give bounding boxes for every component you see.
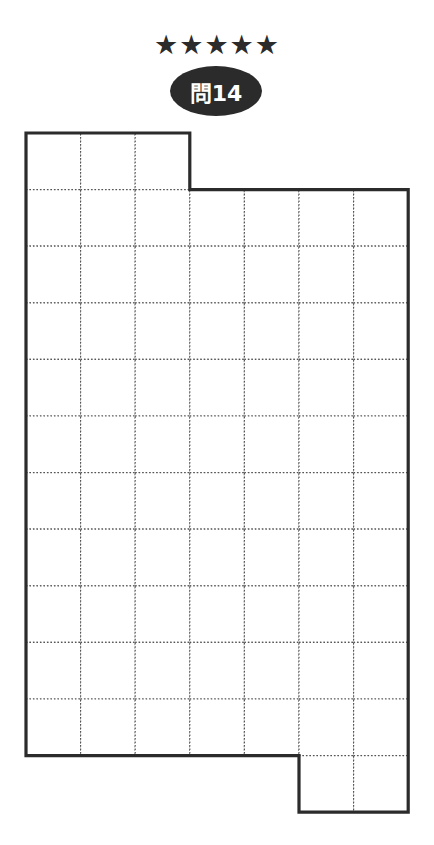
grid-cell[interactable] — [354, 699, 409, 756]
grid-cell[interactable] — [81, 529, 136, 586]
grid-cell[interactable] — [190, 586, 245, 643]
grid-cell[interactable] — [135, 529, 190, 586]
grid-cell[interactable] — [26, 529, 81, 586]
grid-cell[interactable] — [354, 642, 409, 699]
grid-cell[interactable] — [135, 473, 190, 530]
grid-cell[interactable] — [244, 642, 299, 699]
grid-cell[interactable] — [190, 473, 245, 530]
grid-cell[interactable] — [135, 586, 190, 643]
grid-cell[interactable] — [354, 756, 409, 813]
grid-cell[interactable] — [354, 473, 409, 530]
grid-cell[interactable] — [244, 586, 299, 643]
grid-cell[interactable] — [135, 303, 190, 360]
grid-cell[interactable] — [26, 473, 81, 530]
grid-cell[interactable] — [26, 190, 81, 247]
grid-cell[interactable] — [190, 529, 245, 586]
grid-cell[interactable] — [299, 359, 354, 416]
grid-cell[interactable] — [354, 246, 409, 303]
grid-cell[interactable] — [190, 359, 245, 416]
grid-cell[interactable] — [354, 416, 409, 473]
grid-cell[interactable] — [135, 359, 190, 416]
grid-cell[interactable] — [354, 586, 409, 643]
grid-cell[interactable] — [26, 133, 81, 190]
grid-cell[interactable] — [135, 133, 190, 190]
grid-cell[interactable] — [81, 586, 136, 643]
grid-cell[interactable] — [299, 642, 354, 699]
grid-cell[interactable] — [135, 642, 190, 699]
grid-cell[interactable] — [244, 473, 299, 530]
grid-cell[interactable] — [81, 642, 136, 699]
grid-cell[interactable] — [190, 246, 245, 303]
grid-cell[interactable] — [81, 699, 136, 756]
grid-cell[interactable] — [299, 756, 354, 813]
grid-cell[interactable] — [299, 473, 354, 530]
grid-cell[interactable] — [190, 416, 245, 473]
grid-cell[interactable] — [190, 303, 245, 360]
grid-cell[interactable] — [26, 246, 81, 303]
grid-cell[interactable] — [81, 473, 136, 530]
grid-cell[interactable] — [26, 642, 81, 699]
grid-cell[interactable] — [135, 246, 190, 303]
grid-cell[interactable] — [299, 699, 354, 756]
grid-cell[interactable] — [299, 246, 354, 303]
grid-cell[interactable] — [190, 699, 245, 756]
grid-cell[interactable] — [81, 190, 136, 247]
grid-cell[interactable] — [299, 586, 354, 643]
grid-cell[interactable] — [299, 529, 354, 586]
grid-cell[interactable] — [299, 190, 354, 247]
puzzle-grid[interactable] — [0, 0, 434, 845]
grid-cell[interactable] — [244, 529, 299, 586]
grid-cell[interactable] — [26, 699, 81, 756]
grid-cell[interactable] — [81, 133, 136, 190]
grid-cell[interactable] — [244, 416, 299, 473]
grid-cell[interactable] — [81, 359, 136, 416]
grid-cell[interactable] — [190, 190, 245, 247]
grid-cell[interactable] — [26, 416, 81, 473]
grid-cell[interactable] — [81, 246, 136, 303]
grid-cell[interactable] — [26, 303, 81, 360]
grid-cell[interactable] — [135, 190, 190, 247]
grid-cell[interactable] — [244, 190, 299, 247]
grid-cell[interactable] — [26, 586, 81, 643]
grid-cell[interactable] — [190, 642, 245, 699]
grid-cell[interactable] — [244, 303, 299, 360]
grid-cell[interactable] — [26, 359, 81, 416]
grid-cell[interactable] — [354, 190, 409, 247]
grid-cell[interactable] — [244, 246, 299, 303]
grid-cell[interactable] — [135, 699, 190, 756]
grid-cell[interactable] — [354, 529, 409, 586]
grid-cell[interactable] — [299, 416, 354, 473]
grid-cell[interactable] — [135, 416, 190, 473]
grid-cell[interactable] — [244, 359, 299, 416]
grid-cell[interactable] — [81, 416, 136, 473]
grid-cell[interactable] — [354, 303, 409, 360]
grid-cell[interactable] — [354, 359, 409, 416]
grid-cell[interactable] — [299, 303, 354, 360]
grid-cell[interactable] — [81, 303, 136, 360]
grid-cell[interactable] — [244, 699, 299, 756]
